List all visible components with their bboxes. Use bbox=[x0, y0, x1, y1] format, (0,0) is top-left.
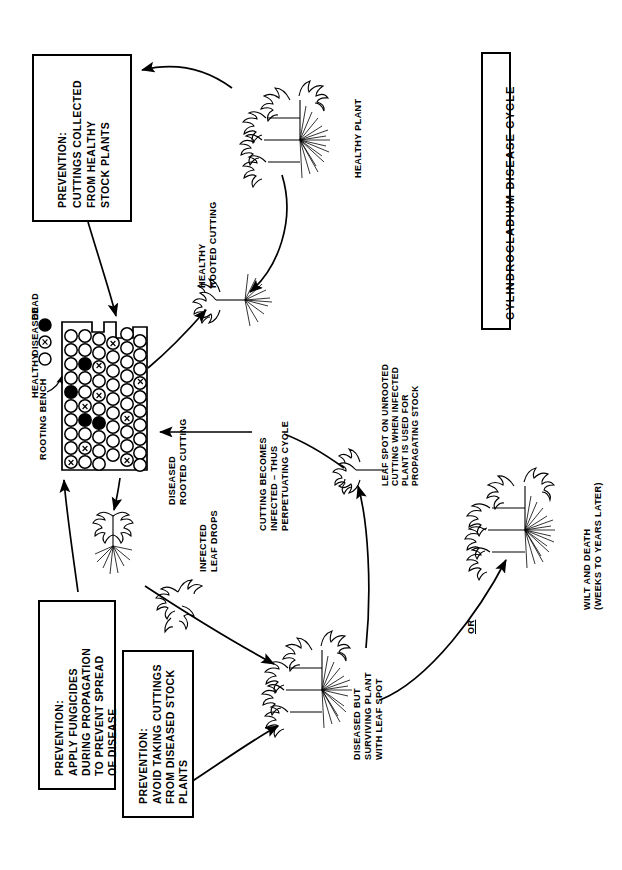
leaf-spot-line1: LEAF SPOT ON UNROOTED bbox=[380, 364, 390, 486]
diseased-rooted-cutting-line1: DISEASED bbox=[167, 456, 178, 505]
infected-leaf-drops-line1: INFECTED bbox=[198, 524, 209, 572]
disease-cycle-diagram: PREVENTION: CUTTINGS COLLECTED FROM HEAL… bbox=[0, 0, 622, 870]
diseased-rooted-cutting-line2: ROOTED CUTTING bbox=[178, 418, 189, 505]
healthy-plant-graphic bbox=[240, 81, 330, 187]
cutting-infected-line1: CUTTING BECOMES bbox=[258, 437, 269, 531]
prevention3-line3: PLANTS bbox=[177, 760, 190, 804]
line-leafspot-to-cycle bbox=[284, 434, 344, 468]
leaf-spot-line4: PROPAGATING STOCK bbox=[410, 385, 420, 486]
leaf-spot-line2: CUTTING WHEN INFECTED bbox=[390, 367, 400, 486]
or-branch-label: OR bbox=[466, 620, 477, 634]
diagram-title-box: CYLINDROCLADIUM DISEASE CYCLE bbox=[481, 52, 511, 330]
leaf-spot-line3: PLANT IS USED FOR bbox=[400, 394, 410, 486]
arrow-prevention2-to-bench bbox=[64, 480, 78, 592]
prevention1-heading: PREVENTION: bbox=[56, 132, 69, 208]
prevention3-heading: PREVENTION: bbox=[137, 728, 150, 804]
diseased-surviving-plant-graphic bbox=[262, 631, 352, 737]
healthy-plant-label: HEALTHY PLANT bbox=[353, 99, 364, 178]
diseased-surviving-line3: WITH LEAF SPOT bbox=[374, 678, 385, 760]
healthy-rooted-cutting-line1: HEALTHY bbox=[197, 243, 208, 288]
diseased-rooted-cutting-graphic bbox=[93, 512, 133, 574]
infected-leaf-drops-graphic bbox=[156, 580, 202, 632]
prevention2-line3: TO PREVENT SPREAD bbox=[93, 656, 106, 776]
cutting-infected-line3: PERPETUATING CYCLE bbox=[280, 421, 291, 531]
infected-leaf-drops-line2: LEAF DROPS bbox=[209, 510, 220, 572]
prevention2-heading: PREVENTION: bbox=[53, 700, 66, 776]
wilt-and-death-plant-graphic bbox=[465, 468, 555, 580]
prevention-box-avoid-diseased: PREVENTION: AVOID TAKING CUTTINGS FROM D… bbox=[122, 650, 194, 818]
prevention2-line4: OF DISEASE bbox=[106, 708, 119, 776]
arrow-or-to-wilt-death bbox=[380, 560, 506, 700]
prevention-box-fungicides: PREVENTION: APPLY FUNGICIDES DURING PROP… bbox=[38, 600, 116, 790]
healthy-rooted-cutting-line2: ROOTED CUTTING bbox=[208, 201, 219, 288]
page-title: CYLINDROCLADIUM DISEASE CYCLE bbox=[504, 85, 516, 320]
diseased-surviving-line2: SURVIVING PLANT bbox=[363, 672, 374, 760]
arrow-prevention3-to-diseased-plant bbox=[182, 726, 278, 788]
prevention1-line3: STOCK PLANTS bbox=[99, 122, 112, 208]
prevention1-line1: CUTTINGS COLLECTED bbox=[71, 80, 84, 208]
arrow-bench-to-healthy-cutting bbox=[148, 310, 206, 368]
prevention1-line2: FROM HEALTHY bbox=[85, 121, 98, 208]
prevention2-line2: DURING PROPAGATION bbox=[80, 648, 93, 776]
legend-markers bbox=[39, 319, 51, 365]
arrow-plant-to-rooted-cutting bbox=[250, 175, 287, 292]
prevention3-line2: FROM DISEASED STOCK bbox=[164, 669, 177, 804]
prevention2-line1: APPLY FUNGICIDES bbox=[67, 668, 80, 776]
rooting-bench-label: ROOTING BENCH bbox=[38, 378, 49, 460]
leaf-spot-unrooted-cutting-graphic bbox=[333, 449, 384, 494]
arrow-diseased-plant-to-leafspot bbox=[358, 486, 369, 648]
legend-label-diseased: DISEASED bbox=[30, 307, 41, 356]
arrow-prevention1-to-bench bbox=[88, 222, 116, 316]
prevention-box-healthy-stock: PREVENTION: CUTTINGS COLLECTED FROM HEAL… bbox=[32, 54, 132, 222]
diseased-surviving-line1: DISEASED BUT bbox=[352, 688, 363, 760]
rooting-bench-graphic bbox=[62, 322, 147, 471]
cutting-infected-line2: INFECTED – THUS bbox=[269, 445, 280, 531]
wilt-death-line2: (WEEKS TO YEARS LATER) bbox=[593, 482, 604, 610]
arrow-plant-to-prevention1 bbox=[142, 67, 232, 88]
wilt-death-line1: WILT AND DEATH bbox=[582, 529, 593, 610]
prevention3-line1: AVOID TAKING CUTTINGS bbox=[151, 664, 164, 804]
arrow-bench-to-diseased-cutting bbox=[114, 478, 120, 510]
